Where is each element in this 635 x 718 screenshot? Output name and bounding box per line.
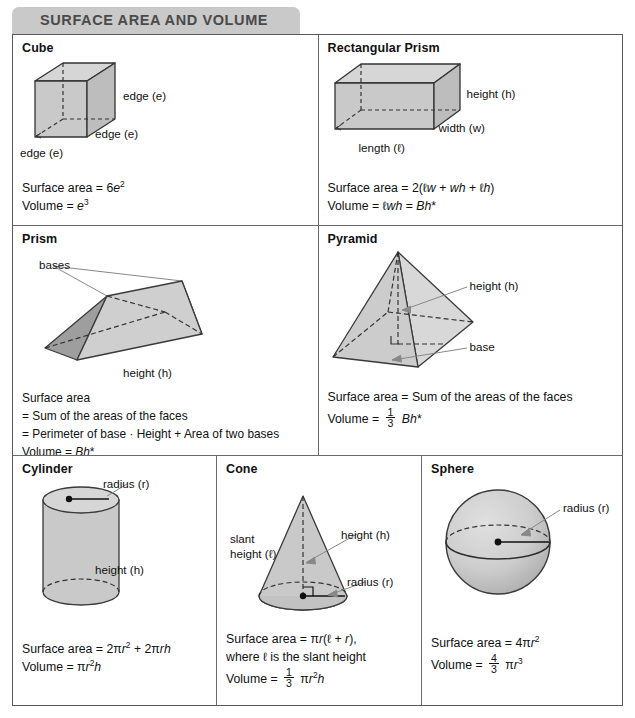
cell-title-prism: Prism (22, 232, 309, 246)
prism-surface-area-formula-2: = Perimeter of base · Height + Area of t… (22, 425, 279, 443)
table-row: Cylinder radius (r) height (h) Surface a… (13, 456, 622, 705)
pyramid-volume-formula: Volume = 13 Bh* (328, 406, 573, 432)
pyramid-surface-area-formula: Surface area = Sum of the areas of the f… (328, 388, 573, 406)
cylinder-diagram (27, 482, 147, 622)
table-row: Prism bases height (h) Surface area (13, 226, 622, 456)
sphere-volume-formula: Volume = 43 πr3 (431, 652, 540, 678)
cell-title-sphere: Sphere (431, 462, 612, 476)
prism-surface-area-formula-1: = Sum of the areas of the faces (22, 407, 279, 425)
prism-label-bases: bases (39, 258, 70, 271)
cone-label-slant-line1: slant (230, 532, 255, 545)
page-title: SURFACE AREA AND VOLUME (40, 12, 268, 28)
cell-prism: Prism bases height (h) Surface area (13, 226, 318, 455)
cube-surface-area-formula: Surface area = 6e2 (22, 179, 125, 197)
rect-prism-label-width: width (w) (439, 121, 485, 134)
prism-surface-area-label: Surface area (22, 389, 279, 407)
pyramid-label-base: base (470, 340, 495, 353)
cylinder-surface-area-formula: Surface area = 2πr2 + 2πrh (22, 640, 171, 658)
prism-volume-formula: Volume = Bh* (22, 443, 279, 455)
cylinder-formulas: Surface area = 2πr2 + 2πrh Volume = πr2h (22, 640, 171, 676)
cone-label-slant-line2: height (ℓ) (230, 547, 276, 560)
cube-label-edge-vertical: edge (e) (123, 89, 166, 102)
cube-label-edge-bottom: edge (e) (20, 146, 63, 159)
cone-formulas: Surface area = πr(ℓ + r), where ℓ is the… (226, 630, 366, 692)
cone-volume-formula: Volume = 13 πr2h (226, 666, 366, 692)
prism-label-height: height (h) (123, 366, 172, 379)
header-tab: SURFACE AREA AND VOLUME (12, 7, 300, 34)
cone-label-radius: radius (r) (347, 575, 393, 588)
cell-rectangular-prism: Rectangular Prism height (h) width (w) l… (318, 35, 623, 225)
rect-prism-surface-area-formula: Surface area = 2(ℓw + wh + ℓh) (328, 179, 495, 197)
sphere-surface-area-formula: Surface area = 4πr2 (431, 634, 540, 652)
cylinder-label-radius: radius (r) (103, 477, 149, 490)
cell-cylinder: Cylinder radius (r) height (h) Surface a… (13, 456, 216, 705)
pyramid-label-height: height (h) (470, 279, 519, 292)
cube-label-edge-depth: edge (e) (95, 127, 138, 140)
cell-title-cone: Cone (226, 462, 412, 476)
pyramid-diagram (325, 244, 525, 384)
cell-pyramid: Pyramid (318, 226, 623, 455)
cell-cube: Cube edge (e) edge (e) edge (e) Surface … (13, 35, 318, 225)
cell-cone: Cone sl (216, 456, 421, 705)
rect-prism-label-length: length (ℓ) (359, 141, 405, 154)
cone-surface-area-formula: Surface area = πr(ℓ + r), (226, 630, 366, 648)
rect-prism-volume-formula: Volume = ℓwh = Bh* (328, 197, 495, 215)
surface-area-volume-table: Cube edge (e) edge (e) edge (e) Surface … (12, 34, 623, 706)
rect-prism-label-height: height (h) (467, 87, 516, 100)
cell-title-cylinder: Cylinder (22, 462, 207, 476)
cone-slant-height-note: where ℓ is the slant height (226, 648, 366, 666)
prism-formulas: Surface area = Sum of the areas of the f… (22, 389, 279, 455)
cone-label-height: height (h) (341, 528, 390, 541)
sphere-label-radius: radius (r) (563, 501, 609, 514)
cell-sphere: Sphere (421, 456, 621, 705)
table-row: Cube edge (e) edge (e) edge (e) Surface … (13, 35, 622, 226)
rectangular-prism-formulas: Surface area = 2(ℓw + wh + ℓh) Volume = … (328, 179, 495, 215)
cylinder-label-height: height (h) (95, 563, 144, 576)
sphere-formulas: Surface area = 4πr2 Volume = 43 πr3 (431, 634, 540, 678)
pyramid-formulas: Surface area = Sum of the areas of the f… (328, 388, 573, 432)
cube-formulas: Surface area = 6e2 Volume = e3 (22, 179, 125, 215)
cylinder-volume-formula: Volume = πr2h (22, 658, 171, 676)
cube-volume-formula: Volume = e3 (22, 197, 125, 215)
rectangular-prism-diagram (325, 53, 505, 153)
